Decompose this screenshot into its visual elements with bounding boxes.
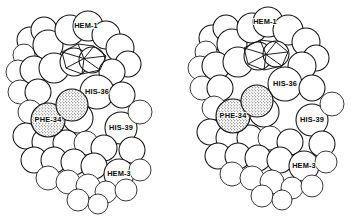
atom-sphere	[315, 151, 337, 173]
residue-label-phe34: PHE-34	[220, 111, 248, 120]
right-molecule-svg: HEM-1HIS-36PHE-34HIS-39HEM-3	[179, 0, 359, 219]
atom-sphere	[272, 190, 292, 210]
atom-sphere	[301, 175, 323, 197]
left-stereo-view: HEM-1HIS-36PHE-34HIS-39HEM-3	[0, 0, 180, 219]
atom-sphere	[115, 179, 137, 201]
atom-sphere	[88, 194, 108, 214]
residue-label-his39: HIS-39	[109, 123, 133, 132]
atom-sphere	[128, 100, 152, 124]
atom-sphere	[129, 159, 151, 181]
right-stereo-view: HEM-1HIS-36PHE-34HIS-39HEM-3	[179, 0, 359, 219]
residue-label-hem1: HEM-1	[74, 21, 98, 30]
atom-sphere	[299, 75, 325, 101]
atom-sphere	[320, 92, 344, 116]
atom-sphere	[67, 189, 89, 211]
residue-label-hem1: HEM-1	[253, 17, 277, 26]
stereo-figure: HEM-1HIS-36PHE-34HIS-39HEM-3 HEM-1HIS-36…	[0, 0, 359, 219]
left-molecule-svg: HEM-1HIS-36PHE-34HIS-39HEM-3	[0, 0, 180, 219]
residue-label-his36: HIS-36	[85, 87, 109, 96]
residue-label-hem3: HEM-3	[292, 161, 316, 170]
residue-label-hem3: HEM-3	[107, 169, 131, 178]
residue-label-his39: HIS-39	[300, 115, 324, 124]
residue-label-phe34: PHE-34	[35, 115, 63, 124]
atom-sphere	[251, 185, 273, 207]
residue-label-his36: HIS-36	[273, 79, 297, 88]
